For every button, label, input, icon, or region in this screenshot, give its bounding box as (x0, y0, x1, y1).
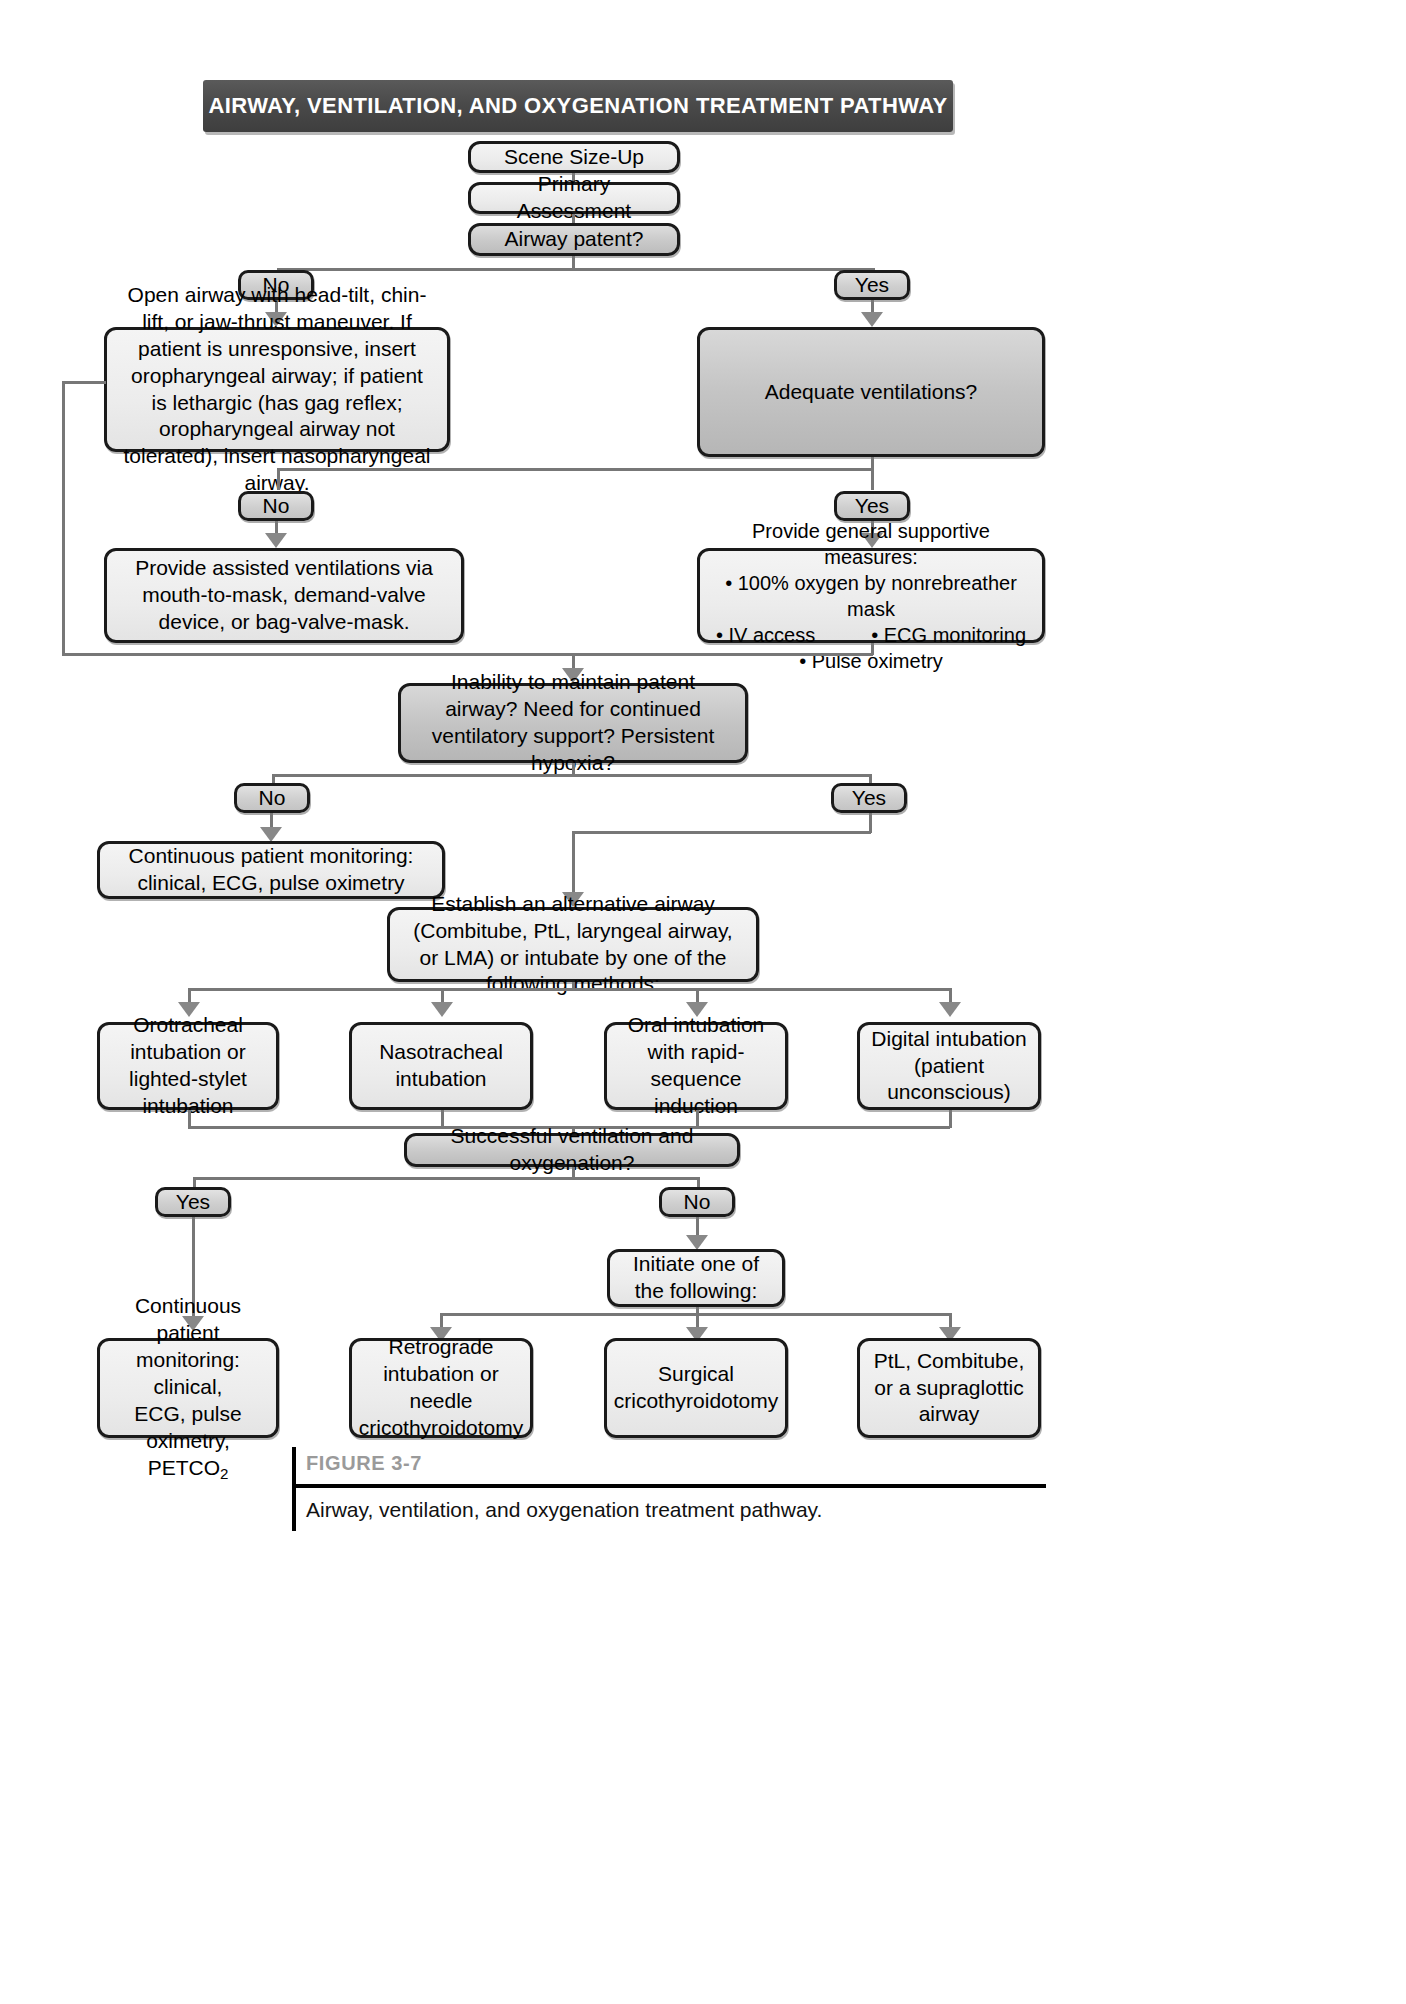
node-establish-alternative-airway[interactable]: Establish an alternative airway (Combitu… (387, 907, 759, 982)
connector (193, 1177, 697, 1180)
node-label: Inability to maintain patent airway? Nee… (415, 669, 731, 777)
node-ptl-combitube-supraglottic[interactable]: PtL, Combitube, or a supraglottic airway (857, 1338, 1041, 1438)
connector (440, 1313, 950, 1316)
node-continuous-monitoring-2[interactable]: Continuous patient monitoring: clinical,… (97, 1338, 279, 1438)
arrow-down-icon (939, 1002, 961, 1017)
node-label: Airway patent? (505, 226, 644, 253)
branch-label-yes-success[interactable]: Yes (155, 1187, 231, 1217)
connector (277, 268, 875, 271)
branch-label-yes-inability[interactable]: Yes (831, 783, 907, 813)
node-label: Adequate ventilations? (765, 379, 978, 406)
arrow-down-icon (431, 1002, 453, 1017)
petco2-subscript: 2 (220, 1464, 228, 1481)
connector (871, 468, 874, 490)
connector (277, 468, 874, 471)
arrow-down-icon (861, 312, 883, 327)
node-retrograde-intubation[interactable]: Retrograde intubation or needle cricothy… (349, 1338, 533, 1438)
node-label-line: ECG, pulse oximetry, (108, 1401, 268, 1455)
branch-label-no-success[interactable]: No (659, 1187, 735, 1217)
figure-label: FIGURE 3-7 (306, 1452, 422, 1475)
node-label: Continuous patient monitoring: clinical,… (114, 843, 428, 897)
connector (272, 774, 870, 777)
node-successful-ventilation-decision[interactable]: Successful ventilation and oxygenation? (404, 1133, 740, 1167)
node-label-line: monitoring: clinical, (108, 1347, 268, 1401)
branch-label-text: Yes (176, 1189, 210, 1216)
branch-label-text: Yes (852, 785, 886, 812)
pathway-title-text: AIRWAY, VENTILATION, AND OXYGENATION TRE… (208, 93, 947, 119)
node-digital-intubation[interactable]: Digital intubation (patient unconscious) (857, 1022, 1041, 1110)
connector (105, 653, 873, 656)
node-adequate-ventilations-decision[interactable]: Adequate ventilations? (697, 327, 1045, 457)
arrow-down-icon (686, 1235, 708, 1250)
branch-label-text: No (684, 1189, 711, 1216)
node-nasotracheal-intubation[interactable]: Nasotracheal intubation (349, 1022, 533, 1110)
node-label: Open airway with head-tilt, chin-lift, o… (121, 282, 433, 497)
node-orotracheal-intubation[interactable]: Orotracheal intubation or lighted-stylet… (97, 1022, 279, 1110)
node-label: Oral intubation with rapid-sequence indu… (615, 1012, 777, 1120)
pathway-title-banner: AIRWAY, VENTILATION, AND OXYGENATION TRE… (203, 80, 953, 132)
caption-vertical-rule (292, 1447, 296, 1531)
node-oral-rsi-intubation[interactable]: Oral intubation with rapid-sequence indu… (604, 1022, 788, 1110)
branch-label-text: No (259, 785, 286, 812)
node-label: Scene Size-Up (504, 144, 644, 171)
connector (572, 831, 575, 897)
connector (869, 813, 872, 833)
node-label: Surgical cricothyroidotomy (614, 1361, 779, 1415)
branch-label-text: Yes (855, 272, 889, 299)
connector (188, 988, 950, 991)
connector-feedback (62, 653, 105, 656)
flowchart-canvas: AIRWAY, VENTILATION, AND OXYGENATION TRE… (0, 0, 1406, 2004)
supportive-title: Provide general supportive measures: (710, 518, 1032, 570)
supportive-bullet: • IV access (716, 622, 815, 648)
node-primary-assessment[interactable]: Primary Assessment (468, 182, 680, 214)
node-label: Digital intubation (patient unconscious) (868, 1026, 1030, 1107)
arrow-down-icon (265, 533, 287, 548)
node-label: Orotracheal intubation or lighted-stylet… (108, 1012, 268, 1120)
node-label: PtL, Combitube, or a supraglottic airway (868, 1348, 1030, 1429)
branch-label-yes-ventilations[interactable]: Yes (834, 491, 910, 521)
supportive-bullet: • ECG monitoring (871, 622, 1026, 648)
node-label: Provide assisted ventilations via mouth-… (123, 555, 445, 636)
node-inability-decision[interactable]: Inability to maintain patent airway? Nee… (398, 683, 748, 763)
connector (277, 468, 280, 490)
node-label: Retrograde intubation or needle cricothy… (359, 1334, 524, 1442)
connector-feedback (62, 381, 65, 656)
node-open-airway[interactable]: Open airway with head-tilt, chin-lift, o… (104, 327, 450, 452)
caption-horizontal-rule (292, 1484, 1046, 1488)
continuous-monitoring-2-lines: Continuous patient monitoring: clinical,… (108, 1293, 268, 1482)
connector (572, 831, 871, 834)
branch-label-no-inability[interactable]: No (234, 783, 310, 813)
node-label: Nasotracheal intubation (360, 1039, 522, 1093)
node-label-line-petco2: PETCO2 (108, 1455, 268, 1483)
arrow-down-icon (260, 827, 282, 842)
node-label-line: Continuous patient (108, 1293, 268, 1347)
node-assisted-ventilations[interactable]: Provide assisted ventilations via mouth-… (104, 548, 464, 643)
node-continuous-monitoring-1[interactable]: Continuous patient monitoring: clinical,… (97, 841, 445, 899)
connector-feedback (62, 381, 106, 384)
node-label: Initiate one of the following: (620, 1251, 772, 1305)
branch-label-yes-airway[interactable]: Yes (834, 270, 910, 300)
node-supportive-measures[interactable]: Provide general supportive measures: • 1… (697, 548, 1045, 643)
node-initiate-one-of-following[interactable]: Initiate one of the following: (607, 1249, 785, 1307)
figure-caption-text: Airway, ventilation, and oxygenation tre… (306, 1498, 822, 1522)
node-surgical-cricothyroidotomy[interactable]: Surgical cricothyroidotomy (604, 1338, 788, 1438)
node-airway-patent-decision[interactable]: Airway patent? (468, 223, 680, 256)
node-scene-size-up[interactable]: Scene Size-Up (468, 141, 680, 173)
branch-label-text: No (263, 493, 290, 520)
branch-label-text: Yes (855, 493, 889, 520)
supportive-bullet: • 100% oxygen by nonrebreather mask (710, 570, 1032, 622)
branch-label-no-ventilations[interactable]: No (238, 491, 314, 521)
